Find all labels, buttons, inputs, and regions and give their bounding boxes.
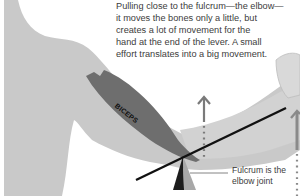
explanation-caption: Pulling close to the fulcrum—the elbow— … (116, 0, 300, 60)
fulcrum-label: Fulcrum is the elbow joint (232, 165, 300, 187)
